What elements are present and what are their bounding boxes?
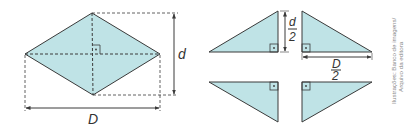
- half-major-fraction: D 2: [331, 57, 341, 83]
- triangle-bottom-right: [302, 82, 372, 122]
- rhombus: [25, 13, 160, 95]
- major-diagonal-label: D: [88, 111, 98, 127]
- half-minor-denominator: 2: [288, 30, 296, 44]
- half-minor-numerator: d: [289, 15, 296, 29]
- half-major-denominator: 2: [331, 69, 339, 83]
- rhombus-diagram: d D d 2 D 2: [0, 0, 411, 130]
- minor-diagonal-label: d: [178, 46, 187, 62]
- triangle-bottom-left: [209, 82, 278, 122]
- image-credit: Ilustrações: Banco de imagens/ Arquivo d…: [390, 17, 404, 104]
- half-minor-fraction: d 2: [288, 15, 297, 44]
- credit-line-1: Ilustrações: Banco de imagens/: [390, 17, 397, 104]
- triangle-top-right: [302, 11, 372, 52]
- credit-line-2: Arquivo da editora: [397, 41, 404, 92]
- triangle-top-left: [209, 11, 278, 52]
